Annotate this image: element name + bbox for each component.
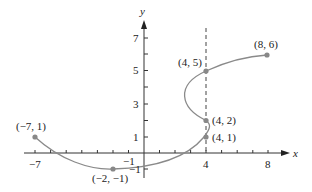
- point-label: (4, 1): [212, 131, 236, 144]
- point-8-6: [264, 52, 269, 57]
- y-tick-label: 1: [133, 131, 139, 143]
- y-tick-label: −1: [129, 163, 141, 175]
- point-label: (8, 6): [254, 38, 278, 51]
- point-neg7-1: [32, 134, 37, 139]
- x-axis-label: x: [292, 147, 298, 159]
- point-4-2: [203, 118, 208, 123]
- y-tick-label: 3: [133, 98, 139, 110]
- point-label: (4, 2): [212, 114, 236, 127]
- y-axis-label: y: [139, 5, 145, 17]
- data-points: [32, 52, 269, 171]
- y-axis-arrow-icon: [141, 20, 147, 29]
- y-tick-label: 7: [133, 32, 139, 44]
- point-neg2-neg1: [110, 166, 115, 171]
- chart: y x −7 −1 4 8 7 5 3 1 −1 (−7, 1) (−2, −1…: [0, 0, 312, 192]
- x-tick-label: −7: [29, 158, 41, 170]
- point-4-5: [203, 68, 208, 73]
- x-axis-arrow-icon: [281, 150, 290, 156]
- curve: [35, 55, 267, 169]
- point-label: (−7, 1): [16, 120, 46, 133]
- x-tick-label: 8: [265, 158, 271, 170]
- point-4-1: [203, 134, 208, 139]
- point-label: (−2, −1): [92, 172, 129, 185]
- y-tick-label: 5: [133, 64, 139, 76]
- y-tick-marks: [144, 38, 148, 169]
- x-tick-label: 4: [203, 158, 209, 170]
- point-label: (4, 5): [178, 56, 202, 69]
